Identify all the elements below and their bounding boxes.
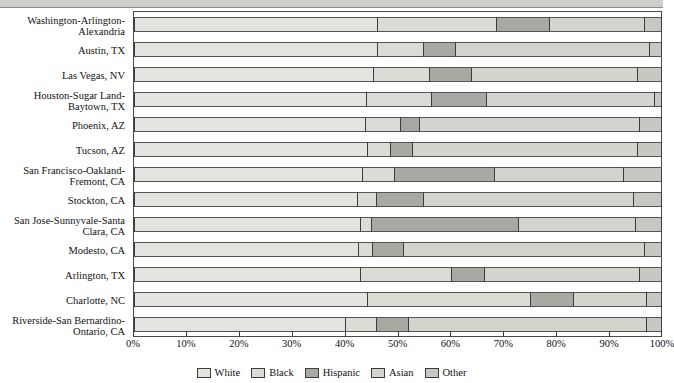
bar-segment-black[interactable] xyxy=(359,242,372,257)
bar-segment-hispanic[interactable] xyxy=(432,92,487,107)
bar-segment-hispanic[interactable] xyxy=(452,267,485,282)
bar-segment-hispanic[interactable] xyxy=(401,117,420,132)
bar-segment-white[interactable] xyxy=(134,242,359,257)
bar-segment-other[interactable] xyxy=(640,117,662,132)
legend-item-other[interactable]: Other xyxy=(425,367,467,378)
bar-segment-white[interactable] xyxy=(134,292,368,307)
bar-segment-hispanic[interactable] xyxy=(391,142,414,157)
legend-item-asian[interactable]: Asian xyxy=(371,367,414,378)
bar-segment-asian[interactable] xyxy=(550,17,645,32)
bar-segment-hispanic[interactable] xyxy=(424,42,456,57)
legend-label: Asian xyxy=(389,367,414,378)
bar-segment-asian[interactable] xyxy=(409,317,647,332)
bar-segment-white[interactable] xyxy=(134,92,367,107)
row-label-phoenix-az: Phoenix, AZ xyxy=(0,113,128,139)
bar-segment-other[interactable] xyxy=(647,292,662,307)
bar-segment-asian[interactable] xyxy=(404,242,645,257)
bar-segment-asian[interactable] xyxy=(495,167,624,182)
bar-segment-hispanic[interactable] xyxy=(377,192,424,207)
row-label-las-vegas-nv: Las Vegas, NV xyxy=(0,63,128,89)
bar-segment-other[interactable] xyxy=(638,142,662,157)
bar-segment-asian[interactable] xyxy=(485,267,640,282)
bar-segment-black[interactable] xyxy=(378,17,497,32)
bar-segment-black[interactable] xyxy=(367,92,432,107)
legend-item-white[interactable]: White xyxy=(197,367,241,378)
bar-segment-asian[interactable] xyxy=(487,92,654,107)
bar-segment-white[interactable] xyxy=(134,167,363,182)
bar-segment-black[interactable] xyxy=(368,292,531,307)
bar-segment-white[interactable] xyxy=(134,217,361,232)
row-label-tucson-az: Tucson, AZ xyxy=(0,138,128,164)
x-axis-tick xyxy=(398,331,399,337)
bar-segment-asian[interactable] xyxy=(424,192,634,207)
bar-segment-asian[interactable] xyxy=(456,42,650,57)
bar-segment-black[interactable] xyxy=(346,317,377,332)
chart-row: Charlotte, NC xyxy=(0,288,663,314)
bar-segment-other[interactable] xyxy=(647,317,662,332)
bar-segment-black[interactable] xyxy=(361,217,372,232)
bar-segment-black[interactable] xyxy=(363,167,396,182)
bar-segment-hispanic[interactable] xyxy=(430,67,472,82)
bar-segment-hispanic[interactable] xyxy=(377,317,409,332)
bar-segment-black[interactable] xyxy=(361,267,453,282)
legend-swatch-white xyxy=(197,368,211,378)
bar-segment-white[interactable] xyxy=(134,67,374,82)
bar-segment-hispanic[interactable] xyxy=(372,217,520,232)
stacked-bar[interactable] xyxy=(134,192,662,207)
top-banner-band xyxy=(0,0,663,8)
stacked-bar[interactable] xyxy=(134,167,662,182)
row-label-stockton-ca: Stockton, CA xyxy=(0,188,128,214)
bar-segment-white[interactable] xyxy=(134,117,366,132)
bar-segment-black[interactable] xyxy=(368,142,390,157)
legend-item-hispanic[interactable]: Hispanic xyxy=(305,367,360,378)
bar-segment-other[interactable] xyxy=(636,217,662,232)
chart-row: Stockton, CA xyxy=(0,188,663,214)
bar-segment-other[interactable] xyxy=(655,92,662,107)
bar-segment-white[interactable] xyxy=(134,267,361,282)
bar-segment-other[interactable] xyxy=(645,17,662,32)
bar-segment-black[interactable] xyxy=(378,42,424,57)
legend-item-black[interactable]: Black xyxy=(251,367,294,378)
bar-segment-hispanic[interactable] xyxy=(497,17,550,32)
stacked-bar[interactable] xyxy=(134,117,662,132)
chart-row: Arlington, TX xyxy=(0,263,663,289)
chart-row: Modesto, CA xyxy=(0,238,663,264)
bar-segment-white[interactable] xyxy=(134,42,378,57)
bar-segment-white[interactable] xyxy=(134,142,368,157)
stacked-bar[interactable] xyxy=(134,317,662,332)
bar-segment-asian[interactable] xyxy=(519,217,636,232)
bar-segment-asian[interactable] xyxy=(574,292,647,307)
stacked-bar[interactable] xyxy=(134,92,662,107)
stacked-bar[interactable] xyxy=(134,67,662,82)
bar-segment-white[interactable] xyxy=(134,17,378,32)
bar-segment-hispanic[interactable] xyxy=(373,242,405,257)
bar-segment-asian[interactable] xyxy=(413,142,638,157)
stacked-bar[interactable] xyxy=(134,17,662,32)
x-axis-tick xyxy=(186,331,187,337)
bar-segment-other[interactable] xyxy=(634,192,662,207)
bar-segment-asian[interactable] xyxy=(420,117,640,132)
bar-segment-other[interactable] xyxy=(640,267,662,282)
stacked-bar[interactable] xyxy=(134,42,662,57)
stacked-bar[interactable] xyxy=(134,217,662,232)
bar-segment-black[interactable] xyxy=(358,192,377,207)
bar-segment-hispanic[interactable] xyxy=(395,167,495,182)
bar-segment-other[interactable] xyxy=(638,67,662,82)
bar-segment-black[interactable] xyxy=(374,67,430,82)
stacked-bar[interactable] xyxy=(134,267,662,282)
bar-segment-other[interactable] xyxy=(624,167,662,182)
stacked-bar[interactable] xyxy=(134,142,662,157)
bar-segment-hispanic[interactable] xyxy=(531,292,574,307)
stacked-bar[interactable] xyxy=(134,242,662,257)
bar-segment-asian[interactable] xyxy=(472,67,638,82)
bar-segment-white[interactable] xyxy=(134,317,346,332)
row-label-line: San Jose-Sunnyvale-Santa xyxy=(14,215,125,227)
bar-segment-white[interactable] xyxy=(134,192,358,207)
row-label-san-jose-sunnyvale-santa-clara-ca: San Jose-Sunnyvale-SantaClara, CA xyxy=(0,213,128,239)
stacked-bar[interactable] xyxy=(134,292,662,307)
bar-segment-other[interactable] xyxy=(650,42,662,57)
bar-segment-other[interactable] xyxy=(645,242,662,257)
bar-segment-black[interactable] xyxy=(366,117,401,132)
legend-swatch-asian xyxy=(371,368,385,378)
